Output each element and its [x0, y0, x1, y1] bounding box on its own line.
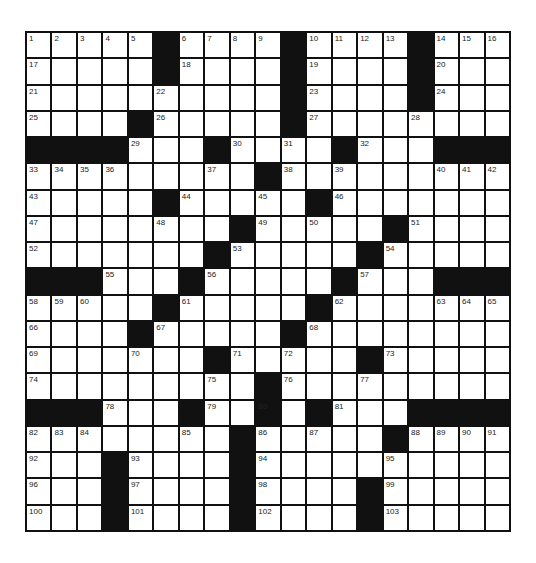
grid-cell[interactable]: 88: [409, 427, 432, 451]
grid-cell[interactable]: 33: [27, 164, 50, 188]
grid-cell[interactable]: [460, 374, 483, 398]
grid-cell[interactable]: 10: [307, 33, 330, 57]
grid-cell[interactable]: [435, 374, 458, 398]
grid-cell[interactable]: [486, 374, 509, 398]
grid-cell[interactable]: [231, 164, 254, 188]
grid-cell[interactable]: [460, 59, 483, 83]
grid-cell[interactable]: 26: [154, 112, 177, 136]
grid-cell[interactable]: [460, 348, 483, 372]
grid-cell[interactable]: 9: [256, 33, 279, 57]
grid-cell[interactable]: [486, 86, 509, 110]
grid-cell[interactable]: [435, 322, 458, 346]
grid-cell[interactable]: [435, 479, 458, 503]
grid-cell[interactable]: [333, 427, 356, 451]
grid-cell[interactable]: 51: [409, 217, 432, 241]
grid-cell[interactable]: [129, 243, 152, 267]
grid-cell[interactable]: [384, 112, 407, 136]
grid-cell[interactable]: [409, 322, 432, 346]
grid-cell[interactable]: 20: [435, 59, 458, 83]
grid-cell[interactable]: 37: [205, 164, 228, 188]
grid-cell[interactable]: [103, 86, 126, 110]
grid-cell[interactable]: [409, 191, 432, 215]
grid-cell[interactable]: 94: [256, 453, 279, 477]
grid-cell[interactable]: [129, 86, 152, 110]
grid-cell[interactable]: [358, 296, 381, 320]
grid-cell[interactable]: 12: [358, 33, 381, 57]
grid-cell[interactable]: [231, 374, 254, 398]
grid-cell[interactable]: [358, 191, 381, 215]
grid-cell[interactable]: [409, 296, 432, 320]
grid-cell[interactable]: [180, 506, 203, 530]
grid-cell[interactable]: 86: [256, 427, 279, 451]
grid-cell[interactable]: [154, 243, 177, 267]
grid-cell[interactable]: [103, 217, 126, 241]
grid-cell[interactable]: 44: [180, 191, 203, 215]
grid-cell[interactable]: 60: [78, 296, 101, 320]
grid-cell[interactable]: [256, 322, 279, 346]
grid-cell[interactable]: 67: [154, 322, 177, 346]
grid-cell[interactable]: 48: [154, 217, 177, 241]
grid-cell[interactable]: [409, 138, 432, 162]
grid-cell[interactable]: 57: [358, 269, 381, 293]
grid-cell[interactable]: [78, 217, 101, 241]
grid-cell[interactable]: [358, 322, 381, 346]
grid-cell[interactable]: 83: [52, 427, 75, 451]
grid-cell[interactable]: [384, 59, 407, 83]
grid-cell[interactable]: [282, 427, 305, 451]
grid-cell[interactable]: [460, 86, 483, 110]
grid-cell[interactable]: 91: [486, 427, 509, 451]
grid-cell[interactable]: 68: [307, 322, 330, 346]
grid-cell[interactable]: [231, 86, 254, 110]
grid-cell[interactable]: [307, 138, 330, 162]
grid-cell[interactable]: [205, 479, 228, 503]
grid-cell[interactable]: 96: [27, 479, 50, 503]
grid-cell[interactable]: [205, 191, 228, 215]
grid-cell[interactable]: 19: [307, 59, 330, 83]
grid-cell[interactable]: [180, 243, 203, 267]
grid-cell[interactable]: [256, 59, 279, 83]
grid-cell[interactable]: 18: [180, 59, 203, 83]
grid-cell[interactable]: [307, 453, 330, 477]
grid-cell[interactable]: 95: [384, 453, 407, 477]
grid-cell[interactable]: 84: [78, 427, 101, 451]
grid-cell[interactable]: [103, 427, 126, 451]
grid-cell[interactable]: 66: [27, 322, 50, 346]
grid-cell[interactable]: 25: [27, 112, 50, 136]
grid-cell[interactable]: 35: [78, 164, 101, 188]
grid-cell[interactable]: [180, 112, 203, 136]
grid-cell[interactable]: [333, 479, 356, 503]
grid-cell[interactable]: [307, 164, 330, 188]
grid-cell[interactable]: [409, 506, 432, 530]
grid-cell[interactable]: [154, 348, 177, 372]
grid-cell[interactable]: [282, 296, 305, 320]
grid-cell[interactable]: 1: [27, 33, 50, 57]
grid-cell[interactable]: 64: [460, 296, 483, 320]
grid-cell[interactable]: [307, 348, 330, 372]
grid-cell[interactable]: [52, 217, 75, 241]
grid-cell[interactable]: [52, 479, 75, 503]
grid-cell[interactable]: [78, 348, 101, 372]
grid-cell[interactable]: 11: [333, 33, 356, 57]
grid-cell[interactable]: [78, 191, 101, 215]
grid-cell[interactable]: 38: [282, 164, 305, 188]
grid-cell[interactable]: [256, 112, 279, 136]
grid-cell[interactable]: [256, 86, 279, 110]
grid-cell[interactable]: [384, 164, 407, 188]
grid-cell[interactable]: [129, 59, 152, 83]
grid-cell[interactable]: [154, 138, 177, 162]
grid-cell[interactable]: [129, 296, 152, 320]
grid-cell[interactable]: [180, 217, 203, 241]
grid-cell[interactable]: 4: [103, 33, 126, 57]
grid-cell[interactable]: [435, 243, 458, 267]
grid-cell[interactable]: [78, 322, 101, 346]
grid-cell[interactable]: 103: [384, 506, 407, 530]
grid-cell[interactable]: 13: [384, 33, 407, 57]
grid-cell[interactable]: [78, 453, 101, 477]
grid-cell[interactable]: [103, 374, 126, 398]
grid-cell[interactable]: [256, 296, 279, 320]
grid-cell[interactable]: [384, 269, 407, 293]
grid-cell[interactable]: [358, 401, 381, 425]
grid-cell[interactable]: [205, 86, 228, 110]
grid-cell[interactable]: [409, 374, 432, 398]
grid-cell[interactable]: 17: [27, 59, 50, 83]
